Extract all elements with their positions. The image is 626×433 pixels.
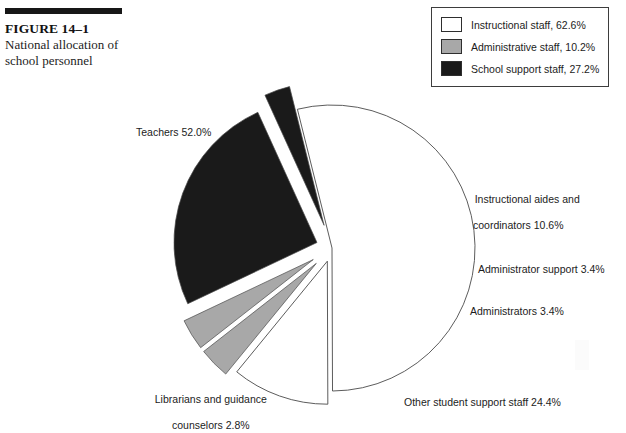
scan-artifact bbox=[575, 340, 589, 370]
pie-label-librarians: Librarians and guidance counselors 2.8% bbox=[122, 380, 288, 433]
pie-label-teachers: Teachers 52.0% bbox=[136, 126, 211, 139]
pie-label-administrators: Administrators 3.4% bbox=[470, 305, 564, 318]
pie-label-instructional-aides-line-2: coordinators 10.6% bbox=[463, 219, 580, 232]
pie-label-instructional-aides-line-1: Instructional aides and bbox=[475, 193, 580, 205]
pie-label-librarians-line-1: Librarians and guidance bbox=[155, 393, 267, 405]
pie-label-instructional-aides: Instructional aides and coordinators 10.… bbox=[463, 180, 580, 258]
pie-label-administrator-support: Administrator support 3.4% bbox=[478, 263, 605, 276]
pie-label-other-student-support: Other student support staff 24.4% bbox=[404, 396, 561, 409]
pie-label-librarians-line-2: counselors 2.8% bbox=[172, 419, 250, 431]
pie-slice-group bbox=[174, 87, 475, 405]
